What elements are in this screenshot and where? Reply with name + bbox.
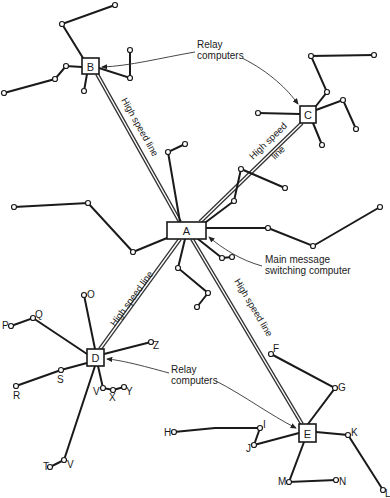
label-y: Y xyxy=(126,386,133,397)
label-p: P xyxy=(2,320,9,331)
high-speed-lines xyxy=(97,74,302,424)
computer-b: B xyxy=(82,58,99,74)
hs-label-ac-2: line xyxy=(269,143,287,161)
main-label-2: switching computer xyxy=(265,265,351,276)
label-x: X xyxy=(109,392,116,403)
label-i: I xyxy=(263,419,266,430)
label-l: L xyxy=(385,488,390,498)
label-v-lower: V xyxy=(67,459,74,470)
label-j: J xyxy=(246,443,251,454)
arrow-to-e xyxy=(216,381,296,428)
label-z: Z xyxy=(153,340,159,351)
computer-a: A xyxy=(167,222,206,239)
computer-e-label: E xyxy=(304,428,311,440)
label-q: Q xyxy=(35,309,43,320)
hs-label-ae: High speed line xyxy=(232,276,275,338)
computer-c: C xyxy=(300,106,316,123)
relay-top-label-2: computers xyxy=(197,50,244,61)
relay-top-label-1: Relay xyxy=(197,39,223,50)
computer-b-label: B xyxy=(87,61,94,73)
computer-d: D xyxy=(87,349,104,366)
label-r: R xyxy=(13,390,20,401)
label-g: G xyxy=(338,382,346,393)
label-o: O xyxy=(87,289,95,300)
computer-c-label: C xyxy=(304,109,312,121)
network-diagram: A B C D E High speed line High speed lin… xyxy=(0,0,390,498)
label-k: K xyxy=(351,427,358,438)
cluster-b-links xyxy=(4,5,130,93)
arrow-to-c xyxy=(242,58,298,104)
label-s: S xyxy=(57,374,64,385)
arrow-to-a xyxy=(209,237,262,266)
computer-a-label: A xyxy=(183,225,191,237)
relay-bottom-label-2: computers xyxy=(171,375,218,386)
arrow-to-d xyxy=(107,359,169,373)
label-f: F xyxy=(273,343,279,354)
computer-d-label: D xyxy=(92,352,100,364)
arrow-to-b xyxy=(102,52,195,67)
label-v-upper: V xyxy=(93,386,100,397)
relay-bottom-label-1: Relay xyxy=(171,364,197,375)
hs-label-ad: High speed line xyxy=(108,269,155,328)
label-h: H xyxy=(164,427,171,438)
main-label-1: Main message xyxy=(265,254,330,265)
terminal-nodes xyxy=(2,3,386,493)
label-n: N xyxy=(339,476,346,487)
computer-e: E xyxy=(299,424,316,442)
label-m: M xyxy=(278,476,286,487)
label-t: T xyxy=(43,461,49,472)
